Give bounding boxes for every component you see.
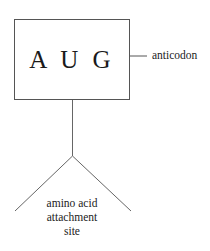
attachment-site-line-3: site (32, 224, 112, 238)
codon-text: A U G (14, 19, 130, 100)
attachment-site-label: amino acid attachment site (32, 196, 112, 238)
attachment-site-line-1: amino acid (32, 196, 112, 210)
anticodon-label: anticodon (152, 49, 197, 61)
attachment-site-line-2: attachment (32, 210, 112, 224)
